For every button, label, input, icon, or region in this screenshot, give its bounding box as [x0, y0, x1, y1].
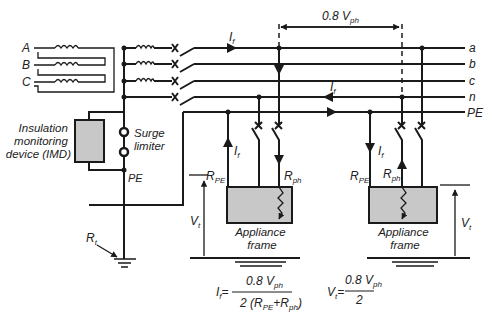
coil-icon: [55, 46, 78, 83]
svg-text:Vt=: Vt=: [327, 285, 344, 301]
formula-touch-voltage: Vt= 0.8 Vph 2: [327, 273, 382, 307]
dimension-label: 0.8 Vph: [322, 9, 359, 25]
fault-current-label-top: If: [229, 30, 235, 46]
pe-junction-label: PE: [128, 172, 143, 184]
conductors: a b c n PE: [183, 41, 484, 120]
svg-text:If: If: [378, 144, 384, 160]
it-system-fault-diagram: A B C: [0, 0, 492, 321]
source-label-b: B: [22, 58, 30, 72]
source-label-c: C: [22, 75, 31, 89]
svg-text:2 (RPE+Rph): 2 (RPE+Rph): [239, 296, 302, 312]
svg-text:If: If: [234, 144, 240, 160]
vt-label-1: Vt: [190, 214, 201, 230]
breaker-x-icon: [172, 44, 178, 101]
earth-resistance-label: Rt: [86, 231, 98, 247]
rpe-label: RPE: [206, 169, 226, 185]
conductor-label-c: c: [469, 74, 475, 88]
conductor-label-n: n: [469, 90, 476, 104]
imd-label: Insulation monitoring device (IMD): [6, 122, 71, 160]
rpe-label-2: RPE: [350, 169, 370, 185]
ground-icon: [114, 259, 136, 267]
surge-limiter-label: Surge limiter: [134, 127, 168, 152]
svg-text:0.8 Vph: 0.8 Vph: [246, 274, 283, 290]
conductor-label-b: b: [469, 57, 476, 71]
source-label-a: A: [21, 41, 30, 55]
appliance-frame-label: Appliance frame: [234, 226, 289, 251]
appliance-2: If RPE Rph Appliance frame Vt: [350, 46, 472, 267]
svg-text:2: 2: [355, 293, 363, 307]
conductor-label-a: a: [469, 41, 476, 55]
formula-fault-current: If= 0.8 Vph 2 (RPE+Rph): [216, 274, 302, 312]
surge-limiter: Surge limiter: [120, 127, 168, 156]
vt-label-2: Vt: [461, 216, 472, 232]
source-transformer: A B C: [21, 41, 114, 92]
imd-device: Insulation monitoring device (IMD): [6, 112, 124, 170]
appliance-frame-label-2: Appliance frame: [377, 226, 432, 251]
rph-label: Rph: [284, 169, 302, 185]
rph-label-2: Rph: [383, 167, 401, 183]
fault-current-label-n: If: [330, 80, 336, 96]
feeder-breakers: [124, 44, 194, 105]
svg-text:0.8 Vph: 0.8 Vph: [345, 273, 382, 289]
svg-text:If=: If=: [216, 285, 229, 301]
earth-ground: Rt: [86, 170, 136, 267]
appliance-1: If RPE Rph Appliance frame Vt: [189, 46, 302, 267]
conductor-label-pe: PE: [467, 106, 484, 120]
